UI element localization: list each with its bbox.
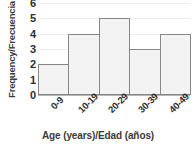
bar [99, 18, 130, 95]
y-tick-label: 6 [16, 0, 36, 9]
bar [160, 34, 191, 95]
y-tick-label: 3 [16, 44, 36, 55]
x-tick-slot: 10-19 [68, 97, 98, 127]
bar [129, 49, 160, 95]
y-tick-label: 5 [16, 13, 36, 24]
bar [68, 34, 99, 95]
x-tick-slot: 20-29 [99, 97, 129, 127]
x-tick-slot: 0-9 [38, 97, 68, 127]
y-tick-label: 1 [16, 74, 36, 85]
y-tick-label: 4 [16, 28, 36, 39]
x-tick-slot: 40-49 [160, 97, 190, 127]
x-tick-slot: 30-39 [129, 97, 159, 127]
x-axis-tick-labels: 0-910-1920-2930-3940-49 [38, 97, 190, 127]
y-tick-label: 0 [16, 90, 36, 101]
plot-area [38, 3, 190, 95]
axis-baseline [38, 95, 190, 96]
bar [38, 64, 69, 95]
x-axis-title: Age (years)/Edad (años) [0, 130, 196, 141]
x-tick-label: 0-9 [49, 94, 66, 111]
y-axis-title: Frequency/Frecuencia [6, 0, 17, 102]
y-axis-tick-labels: 0123456 [16, 0, 36, 100]
y-tick-label: 2 [16, 59, 36, 70]
histogram-chart: Frequency/Frecuencia 0123456 0-910-1920-… [0, 0, 196, 146]
bar-series [38, 3, 190, 95]
